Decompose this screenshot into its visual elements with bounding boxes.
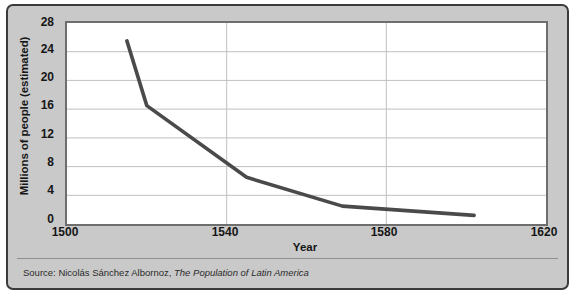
source-citation: Source: Nicolás Sánchez Albornoz, The Po…: [23, 267, 309, 278]
y-tick-label-0: 0: [14, 213, 54, 225]
chart-panel: Millions of people (estimated) 28 24 20 …: [6, 4, 569, 290]
x-tick-label-1540: 1540: [190, 226, 260, 238]
y-tick-label-24: 24: [14, 43, 54, 55]
x-tick-label-1620: 1620: [509, 226, 577, 238]
y-tick-label-4: 4: [14, 184, 54, 196]
footer-divider: [17, 258, 558, 259]
line-chart-svg: [67, 23, 546, 224]
x-tick-label-1580: 1580: [349, 226, 419, 238]
y-tick-label-20: 20: [14, 71, 54, 83]
horizontal-gridlines: [67, 52, 546, 196]
source-prefix: Source: Nicolás Sánchez Albornoz,: [23, 267, 174, 278]
x-tick-label-1500: 1500: [30, 226, 100, 238]
plot-area: [65, 21, 548, 226]
y-tick-label-12: 12: [14, 128, 54, 140]
y-tick-label-8: 8: [14, 156, 54, 168]
y-tick-label-16: 16: [14, 99, 54, 111]
y-tick-label-28: 28: [14, 16, 54, 28]
data-series-line: [127, 41, 474, 216]
source-publication-title: The Population of Latin America: [174, 267, 309, 278]
x-axis-title: Year: [65, 241, 545, 253]
